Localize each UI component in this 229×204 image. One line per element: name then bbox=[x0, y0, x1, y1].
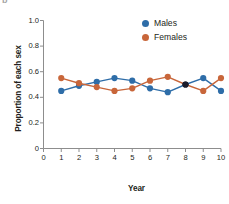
data-point-males bbox=[129, 78, 135, 84]
data-point-females bbox=[147, 78, 153, 84]
legend-item-females[interactable]: Females bbox=[142, 30, 228, 44]
chart-figure: b Proportion of each sex Year 00.20.40.6… bbox=[0, 0, 229, 204]
data-point-females bbox=[200, 88, 206, 94]
x-tick-label: 0 bbox=[36, 154, 52, 162]
y-tick-label: 0.6 bbox=[21, 68, 39, 76]
series-lines bbox=[61, 77, 221, 92]
data-point-females bbox=[111, 88, 117, 94]
data-point-females bbox=[76, 80, 82, 86]
data-point-males bbox=[165, 89, 171, 95]
data-point-males bbox=[218, 88, 224, 94]
data-point-females bbox=[58, 75, 64, 81]
data-point-females bbox=[129, 85, 135, 91]
x-tick-label: 10 bbox=[213, 154, 229, 162]
x-tick-label: 8 bbox=[178, 154, 194, 162]
legend-swatch-icon bbox=[142, 34, 149, 41]
y-tick-label: 0.4 bbox=[21, 93, 39, 101]
x-tick-label: 9 bbox=[195, 154, 211, 162]
y-axis-tick-labels: 00.20.40.60.81.0 bbox=[17, 0, 39, 204]
panel-label: b bbox=[2, 0, 8, 5]
legend-item-males[interactable]: Males bbox=[142, 16, 228, 30]
x-tick-label: 1 bbox=[53, 154, 69, 162]
data-point-males bbox=[58, 88, 64, 94]
y-tick-label: 0 bbox=[21, 145, 39, 153]
x-tick-label: 4 bbox=[107, 154, 123, 162]
x-tick-label: 7 bbox=[160, 154, 176, 162]
data-point-females bbox=[165, 74, 171, 80]
chart-legend: MalesFemales bbox=[142, 16, 228, 44]
data-point-females bbox=[218, 75, 224, 81]
x-tick-label: 6 bbox=[142, 154, 158, 162]
legend-label: Females bbox=[154, 33, 187, 42]
y-tick-label: 1.0 bbox=[21, 17, 39, 25]
x-tick-label: 3 bbox=[89, 154, 105, 162]
x-tick-label: 5 bbox=[124, 154, 140, 162]
x-axis-title: Year bbox=[44, 184, 229, 193]
data-point-females bbox=[94, 84, 100, 90]
data-point-males bbox=[147, 85, 153, 91]
legend-swatch-icon bbox=[142, 20, 149, 27]
x-tick-label: 2 bbox=[71, 154, 87, 162]
data-point-males bbox=[200, 75, 206, 81]
x-axis-tick-labels: 012345678910 bbox=[0, 154, 229, 166]
data-point-males bbox=[111, 75, 117, 81]
data-point-females bbox=[182, 81, 188, 87]
y-tick-label: 0.8 bbox=[21, 42, 39, 50]
legend-label: Males bbox=[154, 19, 177, 28]
y-tick-label: 0.2 bbox=[21, 119, 39, 127]
